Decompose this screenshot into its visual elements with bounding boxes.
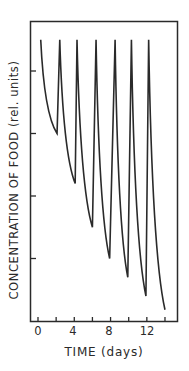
x-axis-ticks: [38, 317, 165, 321]
y-axis-ticks: [31, 71, 37, 259]
x-tick-label-4: 4: [69, 324, 76, 338]
chart-canvas: [0, 0, 189, 371]
x-tick-label-12: 12: [140, 324, 155, 338]
y-axis-title: CONCENTRATION OF FOOD (rel. units): [7, 60, 21, 299]
food-concentration-curve: [41, 40, 165, 310]
plot-frame: [31, 22, 178, 322]
x-tick-label-8: 8: [105, 324, 112, 338]
x-axis-title: TIME (days): [64, 345, 143, 359]
x-tick-label-0: 0: [34, 324, 41, 338]
